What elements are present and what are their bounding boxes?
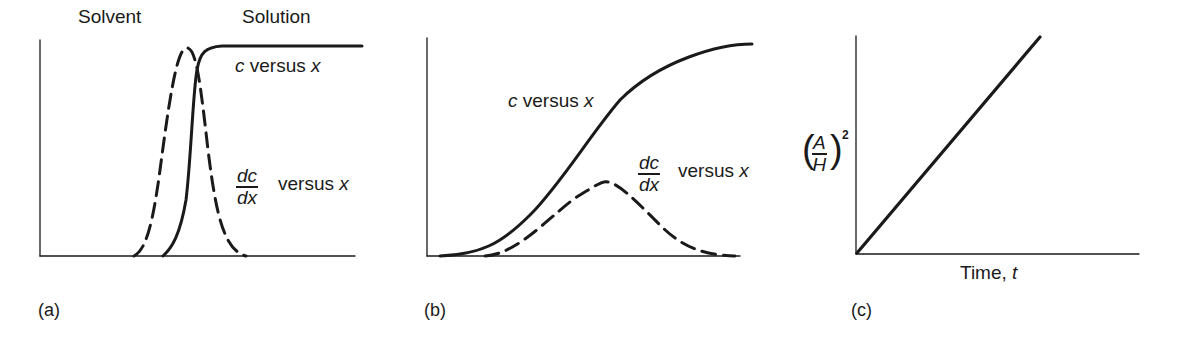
panel-b-c-curve bbox=[440, 44, 752, 256]
panel-a-c-curve bbox=[163, 46, 362, 256]
panel-c-ylabel-fraction: A H bbox=[812, 133, 827, 175]
panel-b-dcdx-den: dx bbox=[638, 175, 660, 195]
panel-c-line bbox=[857, 37, 1040, 253]
panel-c-ylabel-close-paren: ) bbox=[830, 128, 843, 171]
panel-b-dcdx-fraction: dc dx bbox=[638, 153, 660, 195]
panel-b-c-var: c bbox=[508, 90, 518, 111]
panel-a-dcdx-versus: versus bbox=[278, 173, 334, 194]
panel-c-xlabel-text: Time, bbox=[960, 262, 1007, 283]
panel-c-ylabel-den: H bbox=[812, 155, 827, 175]
panel-b-c-label: c versus x bbox=[508, 90, 594, 112]
panel-a-dcdx-den: dx bbox=[236, 188, 258, 208]
panel-a-c-versus: versus bbox=[250, 55, 306, 76]
panel-a-c-label: c versus x bbox=[235, 55, 321, 77]
panel-a-dcdx-num: dc bbox=[236, 166, 258, 188]
panel-c-ylabel-num: A bbox=[812, 133, 827, 155]
panel-b-dcdx-curve bbox=[485, 182, 735, 256]
panel-a-solution-label: Solution bbox=[242, 6, 311, 28]
panel-b-label: (b) bbox=[424, 300, 446, 321]
panel-a-dcdx-x: x bbox=[339, 173, 349, 194]
panel-b-c-versus: versus bbox=[523, 90, 579, 111]
panel-c-xlabel-var: t bbox=[1012, 262, 1017, 283]
panel-a-solvent-label: Solvent bbox=[78, 6, 141, 28]
panel-b-dcdx-x: x bbox=[739, 160, 749, 181]
panel-b-dcdx-label: versus x bbox=[678, 160, 749, 182]
panel-c-ylabel-exponent: 2 bbox=[842, 128, 849, 142]
panel-c-label: (c) bbox=[851, 300, 872, 321]
panel-a-label: (a) bbox=[38, 300, 60, 321]
panel-a-c-var: c bbox=[235, 55, 245, 76]
panel-c-xlabel: Time, t bbox=[960, 262, 1017, 284]
panel-b-c-x: x bbox=[584, 90, 594, 111]
panel-b-dcdx-versus: versus bbox=[678, 160, 734, 181]
panel-a-c-x: x bbox=[311, 55, 321, 76]
figure-canvas bbox=[0, 0, 1177, 353]
panel-a-dcdx-fraction: dc dx bbox=[236, 166, 258, 208]
panel-b-dcdx-num: dc bbox=[638, 153, 660, 175]
panel-a-dcdx-label: versus x bbox=[278, 173, 349, 195]
